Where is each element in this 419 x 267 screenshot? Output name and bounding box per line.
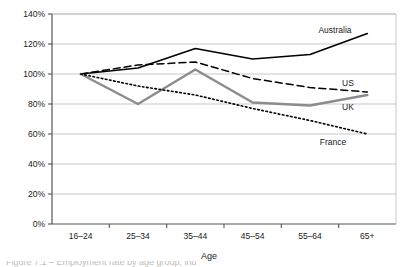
line-chart: 0%20%40%60%80%100%120%140% 16–2425–3435–…	[0, 0, 419, 267]
x-tick-label: 25–34	[126, 231, 150, 241]
y-tick-label: 0%	[33, 219, 46, 229]
y-tick-label: 120%	[23, 39, 45, 49]
y-tick-label: 80%	[28, 99, 45, 109]
x-tick-label: 45–54	[241, 231, 265, 241]
x-axis-title: Age	[201, 251, 217, 261]
chart-background	[0, 0, 419, 267]
y-tick-label: 60%	[28, 129, 45, 139]
series-label-uk: UK	[342, 102, 354, 112]
figure-caption: Figure 7.1 – Employment rate by age grou…	[6, 261, 196, 267]
x-tick-label: 35–44	[184, 231, 208, 241]
chart-container: 0%20%40%60%80%100%120%140% 16–2425–3435–…	[0, 0, 419, 267]
y-tick-label: 20%	[28, 189, 45, 199]
series-label-us: US	[342, 78, 354, 88]
figure-caption-strip: Figure 7.1 – Employment rate by age grou…	[6, 261, 196, 267]
y-tick-label: 40%	[28, 159, 45, 169]
x-tick-label: 65+	[360, 231, 374, 241]
y-tick-label: 140%	[23, 9, 45, 19]
x-tick-label: 55–64	[298, 231, 322, 241]
series-label-france: France	[320, 137, 347, 147]
x-tick-label: 16–24	[69, 231, 93, 241]
series-label-australia: Australia	[318, 25, 351, 35]
y-tick-label: 100%	[23, 69, 45, 79]
